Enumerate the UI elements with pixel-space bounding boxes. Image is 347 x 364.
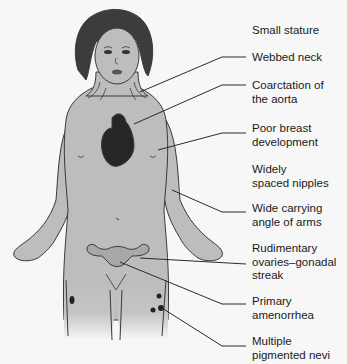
label-small-stature: Small stature: [252, 24, 319, 38]
label-wide-carrying-angle: Wide carrying angle of arms: [252, 202, 322, 229]
label-pigmented-nevi: Multiple pigmented nevi: [252, 335, 330, 362]
line-nevi: [162, 308, 246, 346]
face: [95, 28, 139, 84]
label-webbed-neck: Webbed neck: [252, 51, 322, 65]
label-coarctation: Coarctation of the aorta: [252, 79, 324, 106]
body-illustration: [14, 9, 223, 340]
label-widely-spaced-nipples: Widely spaced nipples: [252, 163, 329, 190]
label-primary-amenorrhea: Primary amenorrhea: [252, 295, 314, 322]
label-rudimentary-ovaries: Rudimentary ovaries–gonadal streak: [252, 242, 336, 283]
label-poor-breast: Poor breast development: [252, 122, 318, 149]
line-webbed-neck: [140, 57, 246, 92]
left-arm: [14, 120, 72, 261]
